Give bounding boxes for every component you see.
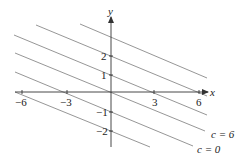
axes	[15, 17, 208, 147]
level-curves-chart: x y −6 −3 3 6 2 1 −1 −2 c = 6 c = 0	[0, 0, 244, 163]
y-tick-label: −1	[96, 106, 108, 118]
x-axis-label: x	[209, 86, 215, 98]
x-tick-label: 3	[152, 96, 158, 108]
level-curve-c18	[36, 25, 207, 96]
y-tick-label: 1	[101, 69, 107, 81]
curve-label-c6-text: c = 6	[211, 128, 235, 140]
y-tick-label: 2	[101, 50, 107, 62]
level-curves	[14, 24, 207, 147]
x-tick-label: −3	[60, 96, 72, 108]
y-axis-label: y	[107, 5, 113, 17]
x-tick-label: 6	[196, 96, 202, 108]
curve-label-c0: c = 0	[197, 143, 221, 155]
x-tick-label: −6	[15, 96, 27, 108]
y-tick-label: −2	[96, 125, 108, 137]
curve-label-c0-text: c = 0	[197, 143, 221, 155]
curve-label-c6: c = 6	[211, 128, 235, 140]
